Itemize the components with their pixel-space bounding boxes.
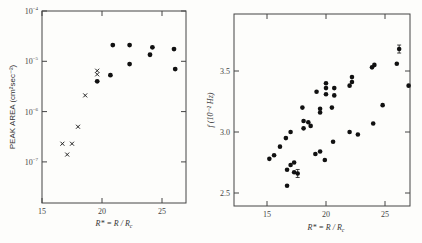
cross-marker (70, 142, 74, 146)
figure: 10−410−510−610−7 152025 PEAK AREA (cm²se… (0, 0, 422, 243)
dot-marker (278, 144, 283, 149)
right-x-tick-label: 20 (322, 210, 330, 219)
dot-marker (285, 168, 290, 173)
right-x-ticks: 152025 (263, 14, 389, 219)
right-data-points (267, 45, 411, 188)
dot-marker (350, 80, 355, 85)
left-plot-frame (42, 11, 186, 203)
dot-marker (380, 103, 385, 108)
dot-marker (288, 130, 293, 135)
left-data-points (60, 43, 177, 157)
dot-marker (308, 124, 313, 129)
right-x-axis-label: R* = R / Rc (307, 223, 345, 233)
left-chart: 10−410−510−610−7 152025 PEAK AREA (cm²se… (8, 6, 186, 229)
dot-marker (110, 43, 115, 48)
dot-marker (127, 43, 132, 48)
cross-marker (60, 142, 64, 146)
dot-marker (406, 83, 411, 88)
dot-marker (313, 152, 318, 157)
cross-marker (65, 153, 69, 157)
dot-marker (318, 107, 323, 112)
left-x-tick-label: 25 (158, 207, 166, 216)
dot-marker (148, 52, 153, 57)
dot-marker (267, 157, 272, 162)
dot-marker (347, 130, 352, 135)
cross-marker (95, 69, 99, 73)
dot-marker (372, 63, 377, 68)
dot-marker (323, 158, 328, 163)
dot-marker (332, 93, 337, 98)
left-y-tick-label: 10−4 (25, 6, 39, 16)
dot-marker (95, 79, 100, 84)
left-x-tick-label: 15 (38, 207, 46, 216)
dot-marker (284, 136, 289, 141)
dot-marker (350, 75, 355, 80)
dot-marker (300, 105, 305, 110)
dot-marker (292, 160, 297, 165)
dot-marker (324, 86, 329, 91)
dot-marker (272, 153, 277, 158)
dot-marker (332, 86, 337, 91)
left-y-tick-label: 10−7 (25, 157, 39, 167)
dot-marker (330, 105, 335, 110)
right-x-tick-label: 25 (381, 210, 389, 219)
right-y-ticks: 3.53.02.5 (220, 67, 410, 198)
cross-marker (76, 125, 80, 129)
dot-marker (172, 47, 177, 52)
right-y-tick-label: 2.5 (220, 189, 230, 198)
dot-marker (285, 183, 290, 188)
right-y-tick-label: 3.5 (220, 67, 230, 76)
left-y-tick-label: 10−5 (25, 56, 39, 66)
left-y-ticks: 10−410−510−610−7 (25, 6, 186, 167)
dot-marker (324, 92, 329, 97)
dot-marker (301, 119, 306, 124)
cross-marker (95, 72, 99, 76)
right-y-tick-label: 3.0 (220, 128, 230, 137)
left-x-ticks: 152025 (38, 11, 166, 216)
right-y-axis-label: f (10⁻² Hz) (206, 92, 215, 127)
dot-marker (127, 62, 132, 67)
cross-marker (83, 93, 87, 97)
left-x-axis-label: R* = R / Rc (95, 219, 133, 229)
dot-marker (318, 149, 323, 154)
dot-marker (150, 45, 155, 50)
right-x-tick-label: 15 (263, 210, 271, 219)
left-y-axis-label: PEAK AREA (cm²sec⁻²) (8, 64, 17, 149)
dot-marker (395, 61, 400, 66)
dot-marker (324, 81, 329, 86)
left-x-tick-label: 20 (98, 207, 106, 216)
left-y-tick-label: 10−6 (25, 107, 39, 117)
right-chart: 3.53.02.5 152025 f (10⁻² Hz) R* = R / Rc (206, 14, 411, 233)
dot-marker (108, 73, 113, 78)
dot-marker (331, 139, 336, 144)
dot-marker (371, 121, 376, 126)
dot-marker (173, 67, 178, 72)
dot-marker (301, 126, 306, 131)
dot-marker (314, 89, 319, 94)
dot-marker (356, 132, 361, 137)
